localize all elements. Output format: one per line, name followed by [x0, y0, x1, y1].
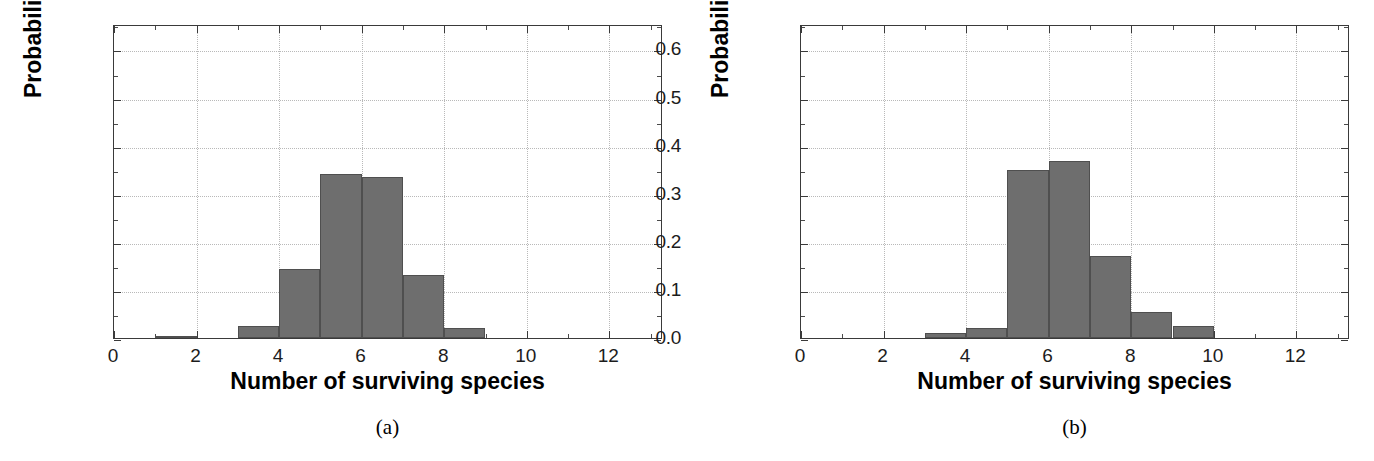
histogram-bar	[403, 275, 444, 338]
x-tick-label: 2	[176, 345, 216, 367]
y-axis-title-b: Probability	[707, 0, 734, 98]
x-axis-tick	[1296, 331, 1297, 338]
y-tick-label: 0.6	[621, 38, 681, 60]
caption-text-a: (a)	[376, 415, 399, 439]
y-axis-tick	[1341, 100, 1348, 101]
x-axis-tick	[966, 26, 967, 33]
x-tick-label: 6	[341, 345, 381, 367]
x-axis-tick	[527, 331, 528, 338]
y-axis-tick	[114, 292, 121, 293]
x-tick-label: 12	[1275, 345, 1315, 367]
x-axis-minor-tick	[320, 26, 321, 30]
x-tick-label: 4	[258, 345, 298, 367]
histogram-bar	[925, 333, 966, 338]
y-axis-minor-tick	[1344, 124, 1348, 125]
histogram-bar	[1131, 312, 1172, 338]
x-tick-label: 8	[1110, 345, 1150, 367]
panel-a: Probability Number of surviving species …	[0, 0, 687, 461]
gridline-vertical	[1296, 26, 1297, 338]
y-axis-minor-tick	[1344, 220, 1348, 221]
x-axis-minor-tick	[1007, 26, 1008, 30]
histogram-bar	[238, 326, 279, 338]
x-axis-minor-tick	[1338, 334, 1339, 338]
y-axis-tick	[114, 196, 121, 197]
x-tick-label: 0	[93, 345, 133, 367]
y-axis-tick	[1341, 196, 1348, 197]
x-axis-minor-tick	[568, 334, 569, 338]
plot-area-b	[800, 25, 1349, 339]
y-axis-tick	[801, 292, 808, 293]
y-tick-label: 0.0	[621, 327, 681, 349]
histogram-bar	[966, 328, 1007, 338]
y-tick-label: 0.2	[621, 231, 681, 253]
y-axis-minor-tick	[801, 124, 805, 125]
histogram-bar	[444, 328, 485, 338]
x-axis-tick	[884, 331, 885, 338]
y-tick-label: 0.5	[621, 87, 681, 109]
y-axis-tick	[1341, 244, 1348, 245]
y-axis-minor-tick	[114, 172, 118, 173]
histogram-bar	[1049, 161, 1090, 338]
x-tick-label: 4	[945, 345, 985, 367]
x-axis-minor-tick	[568, 26, 569, 30]
x-axis-minor-tick	[1090, 26, 1091, 30]
gridline-vertical	[444, 26, 445, 338]
y-axis-minor-tick	[114, 316, 118, 317]
y-axis-minor-tick	[801, 316, 805, 317]
y-axis-minor-tick	[114, 124, 118, 125]
y-axis-tick	[114, 51, 121, 52]
x-tick-label: 2	[863, 345, 903, 367]
y-axis-minor-tick	[657, 220, 661, 221]
gridline-vertical	[1131, 26, 1132, 338]
caption-text-b: (b)	[1062, 415, 1087, 439]
x-axis-tick	[801, 26, 802, 33]
x-axis-tick	[114, 26, 115, 33]
x-tick-label: 0	[780, 345, 820, 367]
x-axis-tick	[609, 26, 610, 33]
y-axis-tick	[1341, 340, 1348, 341]
panel-caption-a: (a)	[113, 415, 662, 440]
x-axis-tick	[884, 26, 885, 33]
x-tick-label: 6	[1028, 345, 1068, 367]
x-axis-minor-tick	[238, 26, 239, 30]
y-axis-title-a: Probability	[20, 0, 47, 98]
y-axis-tick	[801, 100, 808, 101]
y-axis-minor-tick	[801, 268, 805, 269]
y-axis-minor-tick	[801, 172, 805, 173]
y-axis-minor-tick	[657, 76, 661, 77]
figure-row: Probability Number of surviving species …	[0, 0, 1374, 461]
x-axis-tick	[1214, 331, 1215, 338]
y-axis-minor-tick	[657, 27, 661, 28]
y-axis-minor-tick	[801, 220, 805, 221]
y-axis-minor-tick	[1344, 316, 1348, 317]
y-axis-minor-tick	[657, 172, 661, 173]
y-axis-minor-tick	[114, 76, 118, 77]
x-axis-tick	[1131, 26, 1132, 33]
x-axis-minor-tick	[486, 26, 487, 30]
y-axis-tick	[801, 196, 808, 197]
x-axis-minor-tick	[1338, 26, 1339, 30]
x-axis-tick	[1214, 26, 1215, 33]
y-axis-tick	[801, 340, 808, 341]
y-axis-minor-tick	[114, 268, 118, 269]
y-tick-label: 0.1	[621, 279, 681, 301]
y-axis-minor-tick	[1344, 172, 1348, 173]
x-axis-tick	[527, 26, 528, 33]
y-axis-minor-tick	[114, 220, 118, 221]
x-axis-minor-tick	[842, 26, 843, 30]
x-axis-tick	[279, 26, 280, 33]
x-axis-tick	[1296, 26, 1297, 33]
histogram-bar	[155, 336, 196, 338]
x-axis-minor-tick	[155, 26, 156, 30]
gridline-vertical	[966, 26, 967, 338]
y-axis-tick	[801, 51, 808, 52]
y-axis-tick	[114, 340, 121, 341]
y-axis-tick	[114, 100, 121, 101]
x-axis-title-a: Number of surviving species	[113, 368, 662, 395]
y-axis-tick	[1341, 51, 1348, 52]
x-axis-minor-tick	[925, 26, 926, 30]
y-axis-minor-tick	[1344, 268, 1348, 269]
gridline-vertical	[884, 26, 885, 338]
gridline-vertical	[609, 26, 610, 338]
y-tick-label: 0.3	[621, 183, 681, 205]
